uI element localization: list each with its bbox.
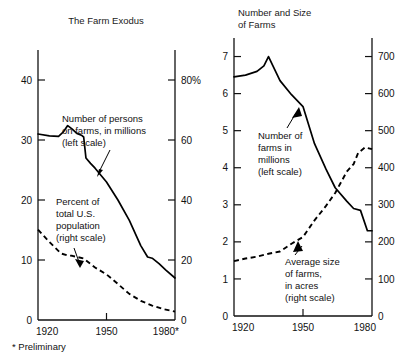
right-chart-series bbox=[234, 57, 372, 262]
series-line-2 bbox=[234, 147, 372, 261]
y-ticklabel-left: 0 bbox=[222, 311, 228, 322]
y-ticklabel-left: 1 bbox=[222, 274, 228, 285]
annotation-line: on farms, in millions bbox=[62, 125, 146, 136]
annotation-line: millions bbox=[258, 154, 290, 165]
y-ticklabel-left: 30 bbox=[21, 135, 33, 146]
y-ticklabel-left: 10 bbox=[21, 255, 33, 266]
y-ticklabel-right: 600 bbox=[378, 88, 395, 99]
x-ticklabel: 1920 bbox=[232, 322, 255, 333]
y-ticklabel-right: 400 bbox=[378, 162, 395, 173]
annotation-line: population bbox=[56, 220, 100, 231]
footnote-preliminary: * Preliminary bbox=[12, 341, 66, 352]
annotation-line: Percent of bbox=[56, 196, 100, 207]
series-line-1 bbox=[234, 57, 372, 231]
annotation-line: Number of persons bbox=[62, 113, 143, 124]
y-ticklabel-right: 700 bbox=[378, 51, 395, 62]
annotation-line: of farms, bbox=[285, 268, 322, 279]
y-ticklabel-right: 500 bbox=[378, 125, 395, 136]
y-ticklabel-left: 4 bbox=[222, 162, 228, 173]
y-ticklabel-right: 100 bbox=[378, 274, 395, 285]
farm-statistics-figure: The Farm Exodus 010203040020406080%19201… bbox=[0, 0, 412, 360]
y-ticklabel-right: 20 bbox=[181, 255, 193, 266]
y-ticklabel-right: 80% bbox=[181, 75, 201, 86]
y-ticklabel-right: 40 bbox=[181, 195, 193, 206]
chart-panel-number-and-size-of-farms: Number and Size of Farms 012345670100200… bbox=[222, 7, 395, 333]
annotation-average-size-of-farms: Average size of farms, in acres (right s… bbox=[285, 241, 340, 303]
x-ticklabel: 1980* bbox=[153, 326, 179, 337]
y-ticklabel-left: 5 bbox=[222, 125, 228, 136]
annotation-leader-line bbox=[99, 150, 110, 172]
y-ticklabel-left: 2 bbox=[222, 236, 228, 247]
y-ticklabel-left: 40 bbox=[21, 75, 33, 86]
y-ticklabel-left: 3 bbox=[222, 199, 228, 210]
chart-title-right-line1: Number and Size bbox=[238, 7, 311, 18]
y-ticklabel-left: 6 bbox=[222, 88, 228, 99]
annotation-line: (left scale) bbox=[62, 137, 106, 148]
y-ticklabel-left: 0 bbox=[26, 315, 32, 326]
annotation-line: (right scale) bbox=[56, 232, 106, 243]
annotation-line: (left scale) bbox=[258, 166, 302, 177]
y-ticklabel-left: 20 bbox=[21, 195, 33, 206]
y-ticklabel-right: 0 bbox=[181, 315, 187, 326]
y-ticklabel-right: 0 bbox=[378, 311, 384, 322]
y-ticklabel-right: 200 bbox=[378, 236, 395, 247]
chart-panel-farm-exodus: The Farm Exodus 010203040020406080%19201… bbox=[21, 15, 201, 337]
annotation-line: Number of bbox=[258, 130, 303, 141]
annotation-line: in acres bbox=[285, 280, 319, 291]
y-ticklabel-right: 60 bbox=[181, 135, 193, 146]
annotation-arrow-icon bbox=[75, 259, 84, 268]
annotation-line: (right scale) bbox=[285, 292, 335, 303]
y-ticklabel-left: 7 bbox=[222, 51, 228, 62]
x-ticklabel: 1920 bbox=[36, 326, 59, 337]
chart-title-right-line2: of Farms bbox=[238, 19, 276, 30]
x-ticklabel: 1950 bbox=[95, 326, 118, 337]
left-chart-axes bbox=[38, 50, 175, 320]
annotation-line: farms in bbox=[258, 142, 292, 153]
annotation-line: total U.S. bbox=[56, 208, 95, 219]
annotation-arrow-icon bbox=[292, 107, 302, 118]
x-ticklabel: 1980 bbox=[354, 322, 377, 333]
annotation-number-of-persons: Number of persons on farms, in millions … bbox=[62, 113, 146, 177]
y-ticklabel-right: 300 bbox=[378, 199, 395, 210]
x-ticklabel: 1950 bbox=[292, 322, 315, 333]
annotation-number-of-farms: Number of farms in millions (left scale) bbox=[258, 107, 303, 177]
chart-title-left: The Farm Exodus bbox=[68, 15, 144, 26]
annotation-line: Average size bbox=[285, 256, 340, 267]
